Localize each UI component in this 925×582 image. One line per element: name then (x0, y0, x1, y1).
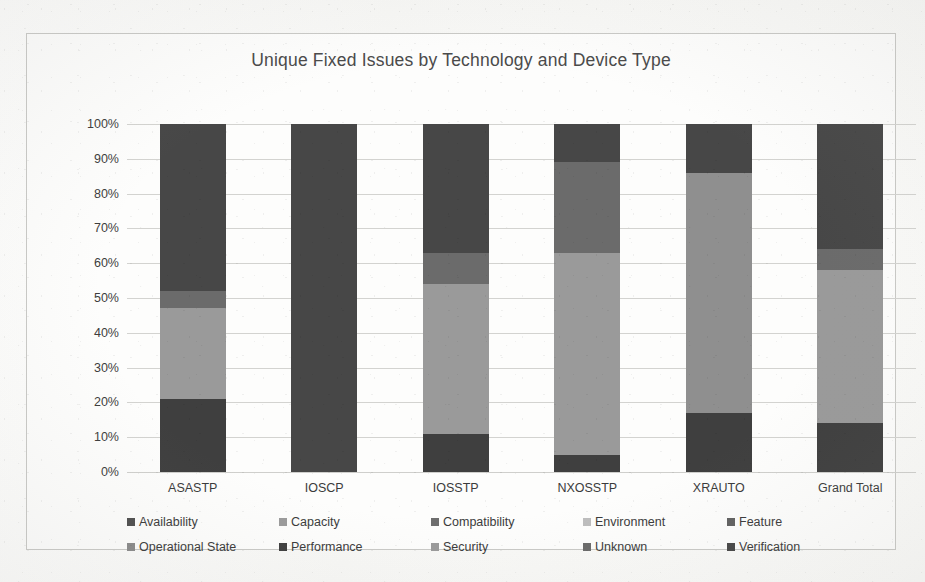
bar-segment[interactable] (423, 284, 489, 434)
legend-item[interactable]: Compatibility (431, 515, 515, 529)
legend-swatch-icon (431, 543, 439, 551)
legend-row-2: Operational StatePerformanceSecurityUnkn… (127, 540, 916, 562)
bar-segment[interactable] (160, 399, 226, 472)
legend-item-label: Feature (739, 515, 782, 529)
y-axis-tick-label: 60% (57, 256, 119, 270)
legend-swatch-icon (279, 543, 287, 551)
bar-segment[interactable] (554, 253, 620, 455)
legend-row-1: AvailabilityCapacityCompatibilityEnviron… (127, 515, 916, 537)
gridline (127, 472, 916, 473)
legend-item[interactable]: Environment (583, 515, 665, 529)
y-axis-tick-label: 10% (57, 430, 119, 444)
bar-segment[interactable] (291, 124, 357, 472)
bar-segment[interactable] (554, 162, 620, 252)
bar-segment[interactable] (554, 455, 620, 472)
chart-title: Unique Fixed Issues by Technology and De… (27, 50, 895, 71)
y-axis-tick-label: 50% (57, 291, 119, 305)
chart-page: Unique Fixed Issues by Technology and De… (0, 0, 925, 582)
legend-swatch-icon (727, 518, 735, 526)
bar-segment[interactable] (423, 253, 489, 284)
x-axis-tick-label: ASASTP (168, 481, 217, 495)
stacked-bar[interactable] (554, 124, 620, 472)
stacked-bar[interactable] (423, 124, 489, 472)
bar-segment[interactable] (160, 124, 226, 291)
legend-swatch-icon (727, 543, 735, 551)
legend-swatch-icon (279, 518, 287, 526)
legend-item-label: Environment (595, 515, 665, 529)
plot-inner (127, 124, 916, 472)
legend-item-label: Compatibility (443, 515, 515, 529)
y-axis-tick-label: 100% (57, 117, 119, 131)
legend-swatch-icon (583, 543, 591, 551)
stacked-bar[interactable] (686, 124, 752, 472)
stacked-bar[interactable] (160, 124, 226, 472)
x-axis-labels: ASASTPIOSCPIOSSTPNXOSSTPXRAUTOGrand Tota… (127, 481, 916, 503)
legend-item-label: Verification (739, 540, 800, 554)
legend-item[interactable]: Operational State (127, 540, 236, 554)
bar-segment[interactable] (686, 173, 752, 413)
legend-item-label: Unknown (595, 540, 647, 554)
legend-item-label: Operational State (139, 540, 236, 554)
bar-segment[interactable] (554, 124, 620, 162)
legend-item[interactable]: Feature (727, 515, 782, 529)
legend-swatch-icon (583, 518, 591, 526)
bar-segment[interactable] (817, 423, 883, 472)
legend-item-label: Performance (291, 540, 363, 554)
y-axis-tick-label: 70% (57, 221, 119, 235)
y-axis-tick-label: 80% (57, 187, 119, 201)
legend-item-label: Availability (139, 515, 198, 529)
bar-column[interactable] (127, 124, 259, 472)
legend-item[interactable]: Capacity (279, 515, 340, 529)
bar-segment[interactable] (817, 249, 883, 270)
bar-column[interactable] (785, 124, 917, 472)
x-axis-tick-label: NXOSSTP (557, 481, 617, 495)
legend-swatch-icon (127, 543, 135, 551)
bar-segment[interactable] (160, 291, 226, 308)
bar-column[interactable] (522, 124, 654, 472)
y-axis-tick-label: 20% (57, 395, 119, 409)
plot-area (127, 124, 916, 472)
bar-segment[interactable] (423, 124, 489, 253)
x-axis-tick-label: IOSCP (305, 481, 344, 495)
x-axis-tick-label: Grand Total (818, 481, 882, 495)
legend-swatch-icon (127, 518, 135, 526)
legend-item[interactable]: Availability (127, 515, 198, 529)
bar-column[interactable] (390, 124, 522, 472)
y-axis-tick-label: 30% (57, 361, 119, 375)
stacked-bar[interactable] (817, 124, 883, 472)
y-axis-tick-label: 0% (57, 465, 119, 479)
chart-legend: AvailabilityCapacityCompatibilityEnviron… (127, 515, 916, 565)
legend-swatch-icon (431, 518, 439, 526)
bar-segment[interactable] (817, 270, 883, 423)
legend-item[interactable]: Security (431, 540, 488, 554)
legend-item-label: Capacity (291, 515, 340, 529)
bar-segment[interactable] (160, 308, 226, 398)
legend-item[interactable]: Performance (279, 540, 363, 554)
legend-item[interactable]: Verification (727, 540, 800, 554)
y-axis-tick-label: 40% (57, 326, 119, 340)
bar-column[interactable] (259, 124, 391, 472)
bar-segment[interactable] (817, 124, 883, 249)
x-axis-tick-label: IOSSTP (433, 481, 479, 495)
bar-segment[interactable] (686, 413, 752, 472)
chart-frame: Unique Fixed Issues by Technology and De… (26, 33, 896, 550)
legend-item-label: Security (443, 540, 488, 554)
bar-column[interactable] (653, 124, 785, 472)
y-axis-tick-label: 90% (57, 152, 119, 166)
legend-item[interactable]: Unknown (583, 540, 647, 554)
y-axis: 100%90%80%70%60%50%40%30%20%10%0% (53, 124, 119, 472)
stacked-bar[interactable] (291, 124, 357, 472)
x-axis-tick-label: XRAUTO (693, 481, 745, 495)
bar-segment[interactable] (686, 124, 752, 173)
bar-segment[interactable] (423, 434, 489, 472)
